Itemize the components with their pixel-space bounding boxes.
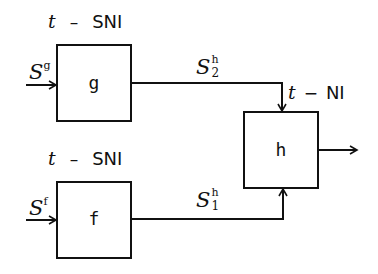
label-var: t xyxy=(48,10,56,32)
composition-diagram: t – SNI t – SNI t − NI Sg Sf Sh2 Sh1 g f… xyxy=(0,0,378,274)
box-f-name: f xyxy=(57,208,131,229)
label-kind: NI xyxy=(326,82,345,103)
edge-label-g-to-h: Sh2 xyxy=(196,57,219,80)
label-op: – xyxy=(70,149,79,169)
label-var: t xyxy=(288,81,296,103)
subscript: 1 xyxy=(211,200,219,212)
input-symbol-g: Sg xyxy=(29,62,50,83)
security-label-g: t – SNI xyxy=(48,12,122,31)
symbol: S xyxy=(196,188,210,212)
label-op: − xyxy=(304,83,318,103)
symbol: S xyxy=(196,55,210,79)
symbol: S xyxy=(29,196,43,220)
label-op: – xyxy=(70,12,79,32)
superscript: g xyxy=(43,59,50,72)
label-var: t xyxy=(48,147,56,169)
security-label-h: t − NI xyxy=(288,83,345,102)
box-g-name: g xyxy=(57,72,131,93)
superscript: h xyxy=(211,54,219,65)
edge-label-f-to-h: Sh1 xyxy=(196,190,219,213)
diagram-lines xyxy=(0,0,378,274)
subscript: 2 xyxy=(211,67,219,79)
edge-g-to-h xyxy=(131,83,282,111)
box-h-name: h xyxy=(244,139,318,160)
input-symbol-f: Sf xyxy=(29,198,47,219)
superscript: f xyxy=(43,195,47,208)
superscript: h xyxy=(211,187,219,198)
symbol: S xyxy=(29,60,43,84)
label-kind: SNI xyxy=(92,148,122,169)
security-label-f: t – SNI xyxy=(48,149,122,168)
label-kind: SNI xyxy=(92,11,122,32)
